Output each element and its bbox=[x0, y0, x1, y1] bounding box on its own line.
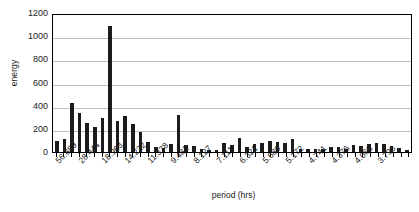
x-axis-tick-label: 5.172 bbox=[284, 144, 305, 165]
x-axis-tick-label: 18.963 bbox=[100, 141, 125, 166]
x-axis-tick-label: 14.222 bbox=[123, 141, 148, 166]
x-axis-tick-labels: 56.88928.44418.96314.22211.3789.4818.127… bbox=[0, 0, 419, 212]
x-axis-tick-label: 8.127 bbox=[192, 144, 213, 165]
x-axis-title: period (hrs) bbox=[0, 190, 419, 200]
x-axis-tick-label: 4.063 bbox=[353, 144, 374, 165]
x-axis-tick-label: 28.444 bbox=[77, 141, 102, 166]
x-axis-tick-label: 3.793 bbox=[376, 144, 397, 165]
x-axis-tick-label: 11.378 bbox=[146, 141, 170, 165]
x-axis-tick-label: 6.321 bbox=[238, 144, 259, 165]
x-axis-tick-label: 5.689 bbox=[261, 144, 282, 165]
x-axis-tick-label: 4.376 bbox=[330, 144, 351, 165]
energy-period-bar-chart: energy 020040060080010001200 56.88928.44… bbox=[0, 0, 419, 212]
x-axis-tick-label: 4.741 bbox=[307, 144, 328, 165]
x-axis-tick-label: 7.111 bbox=[215, 145, 236, 166]
x-axis-tick-label: 56.889 bbox=[54, 141, 79, 166]
x-axis-tick-label: 9.481 bbox=[169, 144, 190, 165]
